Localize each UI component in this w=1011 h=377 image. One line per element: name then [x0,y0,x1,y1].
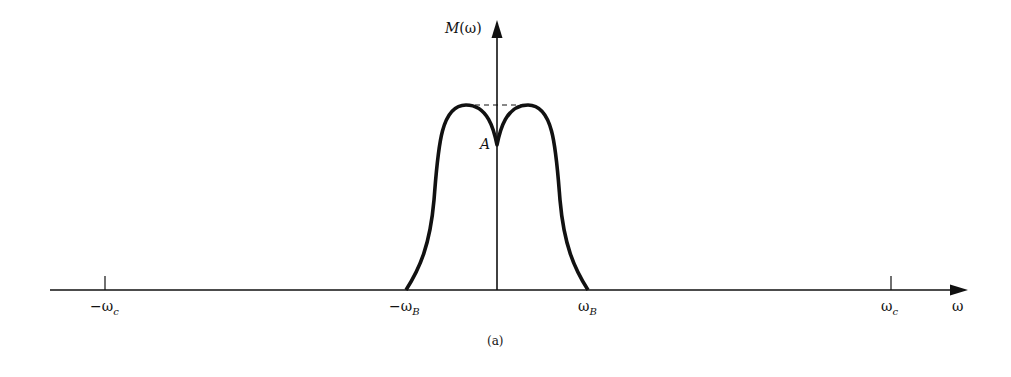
tick-label-wc: ωc [881,298,898,317]
point-label-a: A [480,136,490,152]
x-axis-arrow-icon [950,285,968,296]
x-axis-label: ω [952,298,963,314]
tick-label-neg-wc: −ωc [90,298,119,317]
magnitude-plot [0,0,1011,377]
figure-caption: (a) [487,334,504,348]
tick-label-neg-wb: −ωB [389,298,420,317]
y-axis-arrow-icon [492,20,503,38]
figure: M(ω) A ω −ωc −ωB ωB ωc (a) [0,0,1011,377]
tick-label-wb: ωB [578,298,597,317]
y-axis-label: M(ω) [445,20,482,36]
